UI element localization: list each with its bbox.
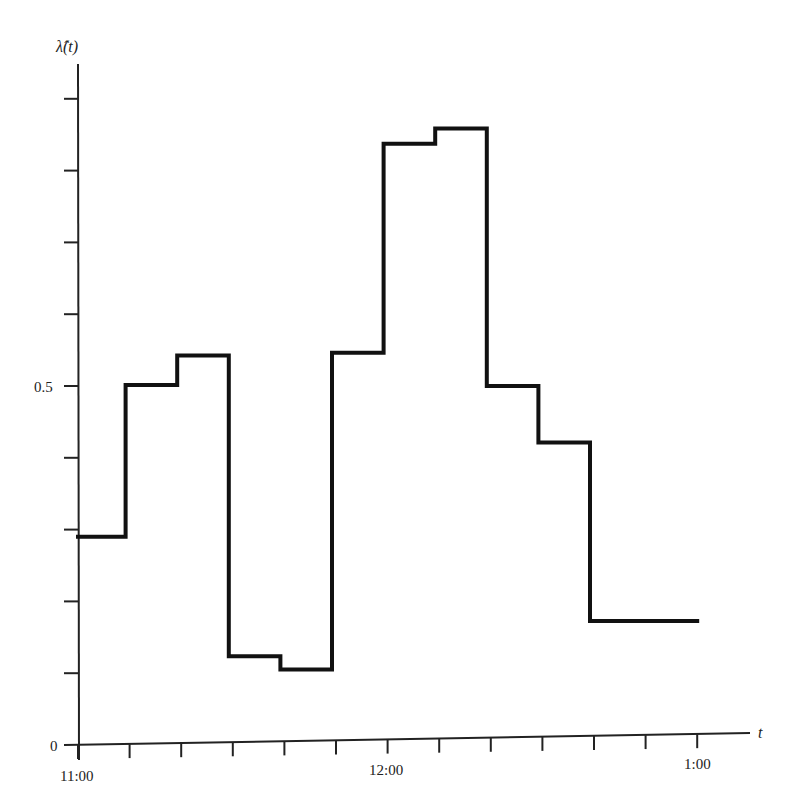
y-axis-label: λ̂(t) (55, 38, 78, 56)
x-tick-label-1100: 11:00 (60, 768, 94, 784)
x-tick-label-100: 1:00 (684, 756, 711, 772)
x-tick-label-1200: 12:00 (369, 762, 403, 778)
x-axis (64, 733, 750, 745)
y-ticks (64, 99, 78, 673)
axes (64, 64, 750, 760)
y-tick-label-0: 0 (50, 738, 58, 754)
step-line-series (78, 128, 697, 669)
x-axis-label: t (758, 724, 763, 741)
y-tick-label-0-5: 0.5 (34, 379, 53, 395)
x-ticks (78, 734, 697, 759)
step-chart: λ̂(t) t 0 0.5 11:00 12:00 1:00 (0, 0, 793, 810)
y-axis (78, 64, 79, 760)
